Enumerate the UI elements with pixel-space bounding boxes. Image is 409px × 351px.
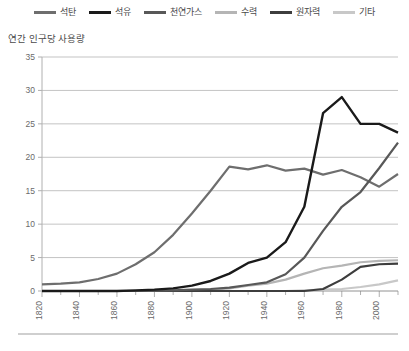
- xtick-label-1840: 1840: [71, 301, 81, 320]
- xtick-label-1860: 1860: [109, 301, 119, 320]
- line-chart: 0510152025303518201840186018801900192019…: [0, 0, 409, 351]
- ytick-label-15: 15: [26, 186, 36, 196]
- plot-area: 0510152025303518201840186018801900192019…: [0, 0, 409, 351]
- ytick-label-5: 5: [30, 253, 35, 263]
- series-line-수력: [42, 260, 398, 291]
- xtick-label-1880: 1880: [146, 301, 156, 320]
- xtick-label-2000: 2000: [371, 301, 381, 320]
- ytick-label-0: 0: [30, 286, 35, 296]
- series-line-석탄: [42, 165, 398, 284]
- xtick-label-1920: 1920: [221, 301, 231, 320]
- series-line-석유: [42, 97, 398, 291]
- xtick-label-1940: 1940: [259, 301, 269, 320]
- ytick-label-20: 20: [26, 152, 36, 162]
- xtick-label-1820: 1820: [34, 301, 44, 320]
- series-line-천연가스: [42, 143, 398, 291]
- xtick-label-1960: 1960: [296, 301, 306, 320]
- xtick-label-1900: 1900: [184, 301, 194, 320]
- ytick-label-10: 10: [26, 219, 36, 229]
- ytick-label-25: 25: [26, 119, 36, 129]
- xtick-label-1980: 1980: [334, 301, 344, 320]
- ytick-label-30: 30: [26, 85, 36, 95]
- chart-root: 석탄석유천연가스수력원자력기타 연간 인구당 사용량 0510152025303…: [0, 0, 409, 351]
- ytick-label-35: 35: [26, 52, 36, 62]
